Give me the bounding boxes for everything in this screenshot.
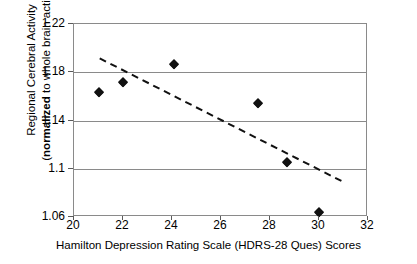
gridline: [74, 72, 366, 73]
data-point-marker: [118, 77, 128, 87]
data-point-marker: [94, 87, 104, 97]
data-point-marker: [253, 98, 263, 108]
x-axis-tick-mark: [318, 216, 319, 220]
x-axis-tick-mark: [367, 216, 368, 220]
gridline: [74, 169, 366, 170]
x-axis-tick-mark: [122, 216, 123, 220]
x-axis-tick-mark: [220, 216, 221, 220]
x-axis-title: Hamilton Depression Rating Scale (HDRS-2…: [0, 239, 417, 251]
data-point-marker: [314, 207, 324, 217]
y-axis-title-bold: normalized: [40, 96, 52, 157]
x-axis-tick-label: 22: [102, 219, 142, 231]
y-axis-tick-label: 1.14: [21, 114, 65, 126]
x-axis-tick-mark: [269, 216, 270, 220]
x-axis-tick-label: 30: [298, 219, 338, 231]
x-axis-tick-label: 32: [347, 219, 387, 231]
y-axis-tick-label: 1.1: [21, 162, 65, 174]
x-axis-tick-mark: [73, 216, 74, 220]
x-axis-tick-label: 20: [53, 219, 93, 231]
gridline: [74, 121, 366, 122]
plot-area: [73, 23, 367, 216]
data-point-marker: [282, 157, 292, 167]
x-axis-tick-label: 26: [200, 219, 240, 231]
y-axis-tick-label: 1.22: [21, 17, 65, 29]
data-point-marker: [169, 59, 179, 69]
x-axis-tick-label: 24: [151, 219, 191, 231]
x-axis-tick-mark: [171, 216, 172, 220]
chart-figure: Regional Cerebral Activity (normalized t…: [0, 0, 417, 264]
x-axis-tick-label: 28: [249, 219, 289, 231]
y-axis-title-rest: to whole brain activity): [40, 0, 52, 96]
y-axis-tick-label: 1.18: [21, 65, 65, 77]
